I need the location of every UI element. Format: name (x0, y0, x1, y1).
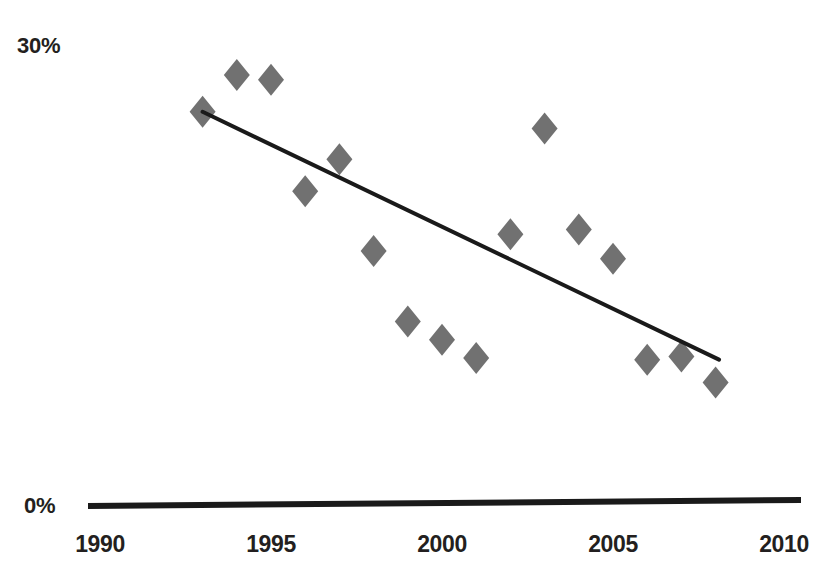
x-axis-line (88, 500, 801, 506)
data-point-1999 (395, 305, 421, 337)
x-tick-label-2005: 2005 (588, 531, 638, 558)
data-point-2001 (463, 342, 489, 374)
data-point-2005 (600, 243, 626, 275)
data-point-1995 (258, 64, 284, 96)
data-point-2003 (532, 113, 558, 145)
x-tick-label-1995: 1995 (246, 531, 296, 558)
data-point-1997 (326, 143, 352, 175)
y-axis-max-label: 30% (17, 33, 60, 59)
y-axis-min-label: 0% (24, 493, 55, 519)
data-point-1998 (361, 235, 387, 267)
x-tick-label-2010: 2010 (759, 531, 809, 558)
data-point-2006 (634, 344, 660, 376)
data-point-1996 (292, 175, 318, 207)
x-tick-label-2000: 2000 (417, 531, 467, 558)
trendline (203, 112, 719, 360)
data-point-1994 (224, 59, 250, 91)
x-tick-label-1990: 1990 (75, 531, 125, 558)
data-point-layer (190, 59, 729, 399)
data-point-2000 (429, 324, 455, 356)
scatter-plot (0, 0, 828, 582)
data-point-2004 (566, 214, 592, 246)
data-point-2008 (703, 367, 729, 399)
chart-container: 30% 0% 19901995200020052010 (0, 0, 828, 582)
data-point-2002 (497, 218, 523, 250)
